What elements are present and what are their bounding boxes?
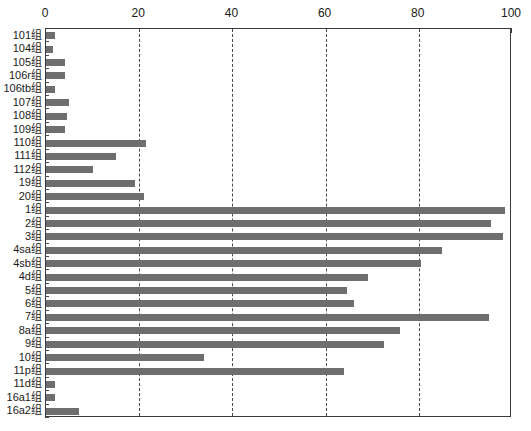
bar xyxy=(46,354,204,361)
y-axis-tick xyxy=(45,202,49,203)
bar-row xyxy=(46,351,510,364)
y-axis-category-label: 4d组 xyxy=(0,270,42,282)
y-axis-tick xyxy=(45,216,49,217)
y-axis-tick xyxy=(45,55,49,56)
y-axis-category-label: 106r组 xyxy=(0,69,42,81)
bar-row xyxy=(46,109,510,122)
bar xyxy=(46,193,144,200)
y-axis-category-label: 2组 xyxy=(0,217,42,229)
bar xyxy=(46,46,53,53)
y-axis-tick xyxy=(45,82,49,83)
y-axis-tick xyxy=(45,296,49,297)
y-axis-tick xyxy=(45,256,49,257)
y-axis-tick xyxy=(45,417,49,418)
y-axis-category-label: 16a1组 xyxy=(0,391,42,403)
bar xyxy=(46,153,116,160)
bar xyxy=(46,300,354,307)
bar-row xyxy=(46,244,510,257)
y-axis-tick xyxy=(45,337,49,338)
y-axis-category-label: 104组 xyxy=(0,42,42,54)
bar-row xyxy=(46,96,510,109)
bar xyxy=(46,72,65,79)
y-axis-category-label: 4sa组 xyxy=(0,243,42,255)
bar-row xyxy=(46,324,510,337)
x-axis-tick-label: 80 xyxy=(411,6,424,20)
y-axis-category-label: 6组 xyxy=(0,297,42,309)
y-axis-category-label: 111组 xyxy=(0,149,42,161)
y-axis-tick xyxy=(45,283,49,284)
y-axis-tick xyxy=(45,122,49,123)
y-axis-category-label: 3组 xyxy=(0,230,42,242)
bar-row xyxy=(46,203,510,216)
y-axis-category-label: 4sb组 xyxy=(0,257,42,269)
bar-row xyxy=(46,42,510,55)
bar xyxy=(46,287,347,294)
bar xyxy=(46,247,442,254)
bar xyxy=(46,59,65,66)
y-axis-tick xyxy=(45,350,49,351)
bar-row xyxy=(46,338,510,351)
y-axis-tick xyxy=(45,363,49,364)
bar-row xyxy=(46,190,510,203)
y-axis-category-label: 101组 xyxy=(0,29,42,41)
y-axis-category-label: 112组 xyxy=(0,163,42,175)
bar xyxy=(46,113,67,120)
y-axis-tick xyxy=(45,68,49,69)
bar-row xyxy=(46,56,510,69)
y-axis-category-label: 16a2组 xyxy=(0,404,42,416)
y-axis-category-label: 108组 xyxy=(0,109,42,121)
bar xyxy=(46,327,400,334)
bar xyxy=(46,368,344,375)
y-axis-category-label: 9组 xyxy=(0,337,42,349)
bar xyxy=(46,140,146,147)
y-axis-category-label: 10组 xyxy=(0,351,42,363)
bar xyxy=(46,274,368,281)
bar-row xyxy=(46,230,510,243)
y-axis-category-label: 5组 xyxy=(0,284,42,296)
bar xyxy=(46,260,421,267)
y-axis-category-label: 105组 xyxy=(0,56,42,68)
bar xyxy=(46,381,55,388)
y-axis-tick xyxy=(45,95,49,96)
bar-row xyxy=(46,83,510,96)
y-axis-category-label: 1组 xyxy=(0,203,42,215)
bar xyxy=(46,126,65,133)
y-axis-tick xyxy=(45,229,49,230)
bar-row xyxy=(46,136,510,149)
bar-row xyxy=(46,364,510,377)
bar-row xyxy=(46,284,510,297)
bar xyxy=(46,207,505,214)
y-axis-tick xyxy=(45,404,49,405)
y-axis-category-label: 11d组 xyxy=(0,377,42,389)
y-axis-tick xyxy=(45,377,49,378)
y-axis-tick xyxy=(45,41,49,42)
y-axis-tick xyxy=(45,176,49,177)
bar-row xyxy=(46,163,510,176)
bar xyxy=(46,99,69,106)
bar xyxy=(46,408,79,415)
bar xyxy=(46,220,491,227)
x-axis-tick-label: 100 xyxy=(501,6,521,20)
plot-area xyxy=(45,28,511,417)
y-axis-tick xyxy=(45,310,49,311)
y-axis-tick xyxy=(45,135,49,136)
y-axis-category-label: 19组 xyxy=(0,176,42,188)
bar xyxy=(46,341,384,348)
y-axis-category-label: 20组 xyxy=(0,190,42,202)
bar xyxy=(46,166,93,173)
bar-row xyxy=(46,270,510,283)
x-axis-tick-label: 20 xyxy=(132,6,145,20)
bar xyxy=(46,233,503,240)
y-axis-category-label: 8a组 xyxy=(0,324,42,336)
y-axis-category-label: 107组 xyxy=(0,96,42,108)
x-axis-major-tick xyxy=(511,28,512,33)
y-axis-tick xyxy=(45,243,49,244)
y-axis-category-label: 106tb组 xyxy=(0,82,42,94)
y-axis-tick xyxy=(45,189,49,190)
bar-row xyxy=(46,217,510,230)
y-axis-category-label: 110组 xyxy=(0,136,42,148)
y-axis-tick xyxy=(45,149,49,150)
bar-row xyxy=(46,297,510,310)
bar xyxy=(46,86,55,93)
bar-row xyxy=(46,311,510,324)
